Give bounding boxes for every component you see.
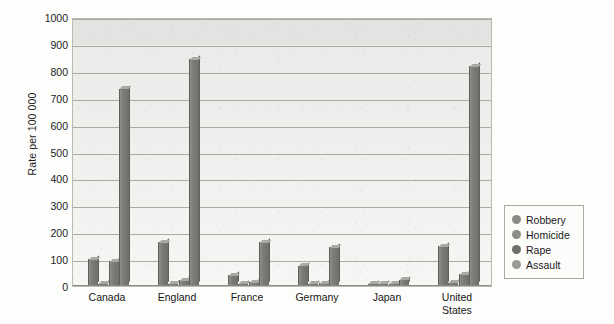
legend-label: Homicide [526, 229, 570, 241]
y-axis-tick-label: 700 [24, 93, 68, 105]
x-axis-baseline [73, 285, 491, 286]
bar-face [469, 66, 479, 285]
y-axis-tick-label: 100 [24, 254, 68, 266]
legend-label: Robbery [526, 214, 566, 226]
plot-area [72, 18, 492, 287]
y-axis-tick-label: 900 [24, 39, 68, 51]
gridline [73, 207, 491, 208]
bar-face [158, 242, 168, 285]
legend-swatch-icon [512, 245, 521, 254]
bar-top [228, 273, 240, 276]
bar [88, 259, 97, 285]
x-axis-tick-label: Canada [89, 291, 126, 304]
y-axis-tick-label: 800 [24, 66, 68, 78]
bar-face [438, 246, 448, 285]
bar-group [228, 18, 269, 285]
y-axis-tick-labels: 10009008007006005004003002001000 [24, 18, 68, 287]
gridline [73, 234, 491, 235]
y-axis-tick-label: 400 [24, 173, 68, 185]
bar [459, 274, 468, 285]
bar-face [259, 242, 269, 285]
gridline [73, 180, 491, 181]
gridline [73, 154, 491, 155]
bar [469, 66, 478, 285]
paper-texture [73, 19, 491, 286]
bar-group [298, 18, 339, 285]
bar-face [119, 89, 129, 285]
gridline [73, 46, 491, 47]
bar-face [189, 59, 199, 285]
x-axis-tick-label: Germany [295, 291, 338, 304]
x-axis-tick-label: France [231, 291, 264, 304]
bar-group [158, 18, 199, 285]
legend-item: Homicide [512, 227, 577, 242]
bar-face [88, 259, 98, 285]
y-axis-tick-label: 500 [24, 147, 68, 159]
bar-face [459, 274, 469, 285]
legend-label: Rape [526, 244, 551, 256]
legend-swatch-icon [512, 260, 521, 269]
bar [158, 242, 167, 285]
bar [189, 59, 198, 285]
bar [438, 246, 447, 285]
legend-label: Assault [526, 259, 560, 271]
gridline [73, 73, 491, 74]
legend-swatch-icon [512, 230, 521, 239]
y-axis-tick-label: 1000 [24, 12, 68, 24]
bar [109, 261, 118, 285]
gridline [73, 261, 491, 262]
bar [298, 266, 307, 285]
gridline [73, 127, 491, 128]
legend-item: Robbery [512, 212, 577, 227]
x-axis-tick-labels: CanadaEnglandFranceGermanyJapanUnited St… [72, 291, 492, 323]
gridline [73, 19, 491, 20]
y-axis-tick-label: 600 [24, 120, 68, 132]
bar-group [438, 18, 479, 285]
bar [259, 242, 268, 285]
x-axis-tick-label: England [158, 291, 197, 304]
x-axis-tick-label: Japan [373, 291, 402, 304]
legend-swatch-icon [512, 215, 521, 224]
bar-group [88, 18, 129, 285]
bar-face [329, 247, 339, 285]
bar-face [228, 275, 238, 285]
bar-face [109, 261, 119, 285]
y-axis-tick-label: 300 [24, 200, 68, 212]
bar-chart: Rate per 100 000 10009008007006005004003… [0, 0, 614, 324]
x-axis-tick-label: United States [442, 291, 472, 316]
bar [228, 275, 237, 285]
bar-group [368, 18, 409, 285]
legend-item: Assault [512, 257, 577, 272]
gridline [73, 100, 491, 101]
bar [329, 247, 338, 285]
y-axis-tick-label: 0 [24, 281, 68, 293]
y-axis-tick-label: 200 [24, 227, 68, 239]
legend: RobberyHomicideRapeAssault [504, 205, 584, 279]
bar-face [298, 266, 308, 285]
bar [119, 89, 128, 285]
legend-item: Rape [512, 242, 577, 257]
